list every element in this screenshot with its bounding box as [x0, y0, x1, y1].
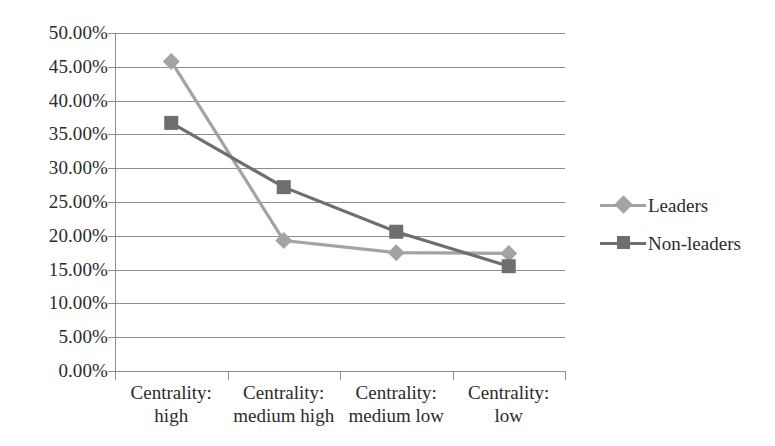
data-point-marker-square	[502, 259, 516, 273]
legend-item-non-leaders[interactable]: Non-leaders	[600, 224, 770, 262]
legend: Leaders Non-leaders	[600, 186, 770, 262]
data-point-marker-square	[277, 180, 291, 194]
data-point-marker-diamond	[388, 244, 405, 261]
legend-label-leaders: Leaders	[646, 196, 708, 215]
data-point-marker-diamond	[275, 232, 292, 249]
legend-item-leaders[interactable]: Leaders	[600, 186, 770, 224]
data-point-marker-square	[164, 116, 178, 130]
series-line-leaders	[171, 61, 509, 253]
legend-marker-diamond-icon	[600, 196, 646, 214]
line-chart: 0.00%5.00%10.00%15.00%20.00%25.00%30.00%…	[0, 0, 775, 446]
legend-label-non-leaders: Non-leaders	[646, 234, 741, 253]
data-point-marker-diamond	[163, 53, 180, 70]
x-axis-category-label: Centrality:low	[434, 381, 584, 427]
data-point-marker-square	[389, 225, 403, 239]
legend-marker-square-icon	[600, 234, 646, 252]
